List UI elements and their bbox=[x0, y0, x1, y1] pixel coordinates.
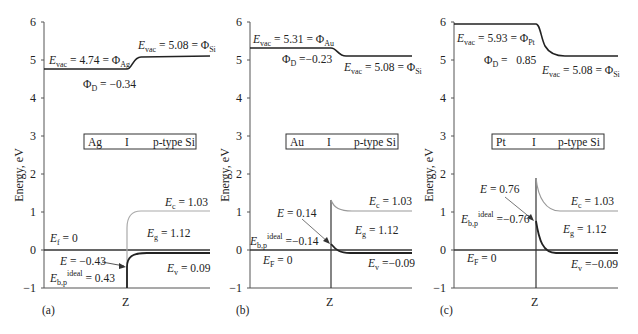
eg-label: Eg = 1.12 bbox=[562, 223, 607, 238]
evac-metal-label: Evac = 5.93 = ΦPt bbox=[456, 32, 536, 47]
semiconductor-label: p-type Si bbox=[558, 136, 600, 149]
tick-label: 5 bbox=[30, 53, 36, 67]
ef-label: EF = 0 bbox=[466, 252, 497, 267]
tick-label: 0 bbox=[30, 243, 36, 257]
tick-label: −1 bbox=[229, 281, 242, 295]
ev-label: Ev =−0.09 bbox=[367, 257, 415, 272]
y-axis-label: Energy, eV bbox=[12, 148, 26, 202]
tick-label: 2 bbox=[440, 167, 446, 181]
tick-label: 0 bbox=[440, 243, 446, 257]
metal-label: Ag bbox=[88, 136, 102, 149]
dipole-label: ΦD =−0.23 bbox=[282, 53, 332, 68]
insulator-label: I bbox=[532, 136, 536, 148]
tick-label: 2 bbox=[236, 167, 242, 181]
tick-label: 4 bbox=[236, 91, 242, 105]
insulator-label: I bbox=[327, 136, 331, 148]
interface-energy-label: E = 0.14 bbox=[276, 207, 317, 219]
metal-label: Pt bbox=[496, 136, 506, 148]
panel-c: 6 5 4 3 2 1 0 −1 Energy, eV Pt I p-type … bbox=[422, 15, 621, 317]
tick-label: −1 bbox=[23, 281, 36, 295]
tick-label: −1 bbox=[433, 281, 446, 295]
x-axis-label: Z bbox=[531, 295, 538, 309]
tick-label: 4 bbox=[440, 91, 446, 105]
tick-label: 2 bbox=[30, 167, 36, 181]
tick-label: 3 bbox=[236, 129, 242, 143]
evac-metal-label: Evac = 5.31 = ΦAu bbox=[252, 33, 334, 48]
tick-label: 5 bbox=[440, 53, 446, 67]
arrow-head bbox=[119, 263, 126, 269]
tick-label: 3 bbox=[440, 129, 446, 143]
layer-box: Pt I p-type Si bbox=[492, 134, 604, 149]
x-axis-label: Z bbox=[326, 295, 333, 309]
y-ticks: 6 5 4 3 2 1 0 −1 bbox=[23, 15, 44, 295]
interface-energy-label: E = 0.76 bbox=[479, 183, 520, 195]
tick-label: 1 bbox=[440, 205, 446, 219]
tick-label: 3 bbox=[30, 129, 36, 143]
insulator-label: I bbox=[125, 136, 129, 148]
eg-label: Eg = 1.12 bbox=[354, 224, 399, 239]
barrier-label: Eb,pideal =−0.76 bbox=[460, 210, 530, 228]
tick-label: 0 bbox=[236, 243, 242, 257]
ev-label: Ev = 0.09 bbox=[166, 262, 211, 277]
interface-energy-label: E = −0.43 bbox=[59, 255, 106, 267]
ec-label: Ec = 1.03 bbox=[368, 195, 412, 210]
tick-label: 5 bbox=[236, 53, 242, 67]
panel-label: (b) bbox=[236, 304, 250, 317]
panel-a: 6 5 4 3 2 1 0 −1 Energy, eV Ag I p-type … bbox=[12, 15, 217, 317]
ec-label: Ec = 1.03 bbox=[164, 196, 208, 211]
tick-label: 6 bbox=[440, 15, 446, 29]
barrier-label: Eb,pideal = 0.43 bbox=[49, 269, 115, 287]
band-diagram-figure: 6 5 4 3 2 1 0 −1 Energy, eV Ag I p-type … bbox=[0, 0, 638, 334]
eg-label: Eg = 1.12 bbox=[146, 227, 191, 242]
y-ticks: 6 5 4 3 2 1 0 −1 bbox=[433, 15, 454, 295]
valence-band bbox=[331, 244, 412, 253]
ev-label: Ev =−0.09 bbox=[570, 258, 618, 273]
y-ticks: 6 5 4 3 2 1 0 −1 bbox=[229, 15, 250, 295]
dipole-label: ΦD = −0.34 bbox=[83, 78, 136, 93]
x-axis-label: Z bbox=[122, 295, 129, 309]
ef-label: Ef = 0 bbox=[49, 232, 78, 247]
layer-box: Au I p-type Si bbox=[286, 134, 398, 149]
dipole-label: ΦD = 0.85 bbox=[484, 54, 537, 69]
y-axis-label: Energy, eV bbox=[218, 148, 232, 202]
semiconductor-label: p-type Si bbox=[354, 136, 396, 149]
evac-si-label: Evac = 5.08 = ΦSi bbox=[137, 39, 217, 54]
panel-b: 6 5 4 3 2 1 0 −1 Energy, eV Au I p-type … bbox=[218, 15, 423, 317]
evac-si-label: Evac = 5.08 = ΦSi bbox=[541, 64, 621, 79]
panel-label: (c) bbox=[440, 304, 453, 317]
tick-label: 6 bbox=[236, 15, 242, 29]
tick-label: 4 bbox=[30, 91, 36, 105]
evac-si-label: Evac = 5.08 = ΦSi bbox=[343, 61, 423, 76]
ef-label: EF = 0 bbox=[262, 254, 293, 269]
tick-label: 1 bbox=[30, 205, 36, 219]
layer-box: Ag I p-type Si bbox=[84, 134, 196, 149]
barrier-label: Eb,pideal =−0.14 bbox=[249, 232, 319, 250]
metal-label: Au bbox=[290, 136, 304, 148]
tick-label: 1 bbox=[236, 205, 242, 219]
y-axis-label: Energy, eV bbox=[422, 148, 436, 202]
panel-label: (a) bbox=[42, 304, 55, 317]
ec-label: Ec = 1.03 bbox=[570, 195, 614, 210]
evac-metal-label: Evac = 4.74 = ΦAg bbox=[48, 54, 130, 69]
tick-label: 6 bbox=[30, 15, 36, 29]
semiconductor-label: p-type Si bbox=[153, 136, 195, 149]
